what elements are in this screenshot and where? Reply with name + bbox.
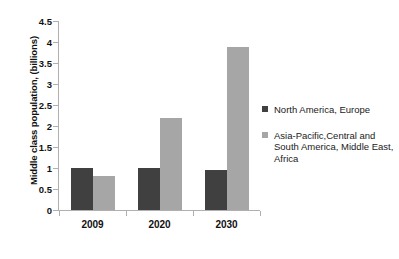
y-axis-tick-label: 1.5 (18, 142, 52, 153)
legend-label: North America, Europe (274, 104, 394, 116)
legend-swatch-icon (262, 132, 268, 138)
y-axis-tick-label: 0 (18, 205, 52, 216)
y-axis-tick-label: 4 (18, 37, 52, 48)
x-axis-line (58, 210, 260, 211)
legend-entry: North America, Europe (262, 104, 394, 116)
bar (71, 168, 93, 210)
y-axis-tick-label: 1 (18, 163, 52, 174)
bar (93, 176, 115, 210)
legend-swatch-icon (262, 106, 268, 112)
y-axis-tick-mark (53, 147, 58, 148)
y-axis-tick-label: 2.5 (18, 100, 52, 111)
y-axis-tick-mark (53, 84, 58, 85)
legend-entry: Asia-Pacific,Central and South America, … (262, 130, 394, 165)
y-axis-tick-mark (53, 21, 58, 22)
bar (205, 170, 227, 210)
y-axis-tick-label: 4.5 (18, 16, 52, 27)
chart-legend: North America, EuropeAsia-Pacific,Centra… (262, 104, 394, 178)
y-axis-tick-mark (53, 189, 58, 190)
y-axis-tick-label: 0.5 (18, 184, 52, 195)
x-axis-tick-mark (126, 211, 127, 216)
y-axis-tick-labels: 00.511.522.533.544.5 (12, 0, 52, 259)
x-axis-tick-label: 2020 (148, 219, 170, 230)
y-axis-tick-mark (53, 210, 58, 211)
y-axis-tick-mark (53, 126, 58, 127)
bar (138, 168, 160, 210)
y-axis-tick-label: 3 (18, 79, 52, 90)
plot-area (59, 21, 260, 210)
bar (227, 47, 249, 210)
y-axis-tick-mark (53, 105, 58, 106)
y-axis-tick-mark (53, 42, 58, 43)
y-axis-tick-label: 3.5 (18, 58, 52, 69)
x-axis-tick-label: 2009 (81, 219, 103, 230)
x-axis-tick-mark (59, 211, 60, 216)
x-axis-tick-label: 2030 (215, 219, 237, 230)
y-axis-tick-label: 2 (18, 121, 52, 132)
bar (160, 118, 182, 210)
legend-label: Asia-Pacific,Central and South America, … (274, 130, 394, 165)
x-axis-tick-mark (193, 211, 194, 216)
y-axis-tick-mark (53, 168, 58, 169)
y-axis-tick-mark (53, 63, 58, 64)
bar-chart: Middle class population, (billions) 00.5… (0, 0, 399, 259)
x-axis-tick-mark (260, 211, 261, 216)
